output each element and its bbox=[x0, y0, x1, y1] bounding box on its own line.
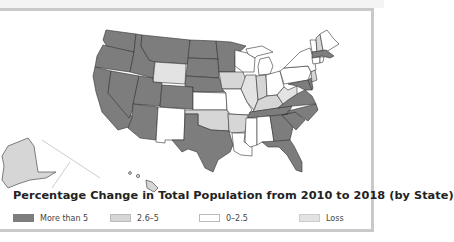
legend-more-than-5: More than 5 bbox=[13, 212, 88, 224]
state-nd bbox=[188, 40, 218, 59]
state-me bbox=[320, 30, 339, 52]
state-wy bbox=[153, 62, 186, 84]
state-ak bbox=[2, 138, 56, 188]
map-title: Percentage Change in Total Population fr… bbox=[13, 189, 454, 202]
legend-label: Loss bbox=[326, 214, 344, 223]
legend-swatch-loss bbox=[299, 214, 320, 222]
state-nm bbox=[156, 107, 185, 143]
legend-swatch-0-to-2-5 bbox=[199, 214, 220, 222]
state-hi-island bbox=[129, 172, 132, 175]
state-nj bbox=[311, 70, 317, 82]
state-ms bbox=[245, 118, 257, 147]
state-ar bbox=[228, 114, 248, 133]
legend-swatch-2-6-to-5 bbox=[110, 214, 131, 222]
state-az bbox=[128, 104, 158, 140]
state-ks bbox=[193, 92, 227, 110]
state-mi-lower bbox=[258, 57, 273, 75]
legend-label: 0–2.5 bbox=[226, 214, 248, 223]
state-in bbox=[256, 75, 267, 100]
legend-loss: Loss bbox=[299, 212, 344, 224]
state-co bbox=[160, 85, 193, 109]
state-hi-island bbox=[136, 174, 139, 177]
state-fl bbox=[262, 140, 302, 172]
state-sd bbox=[186, 58, 219, 78]
legend-2-6-to-5: 2.6–5 bbox=[110, 212, 159, 224]
legend-label: 2.6–5 bbox=[137, 214, 159, 223]
state-ct bbox=[312, 57, 320, 64]
legend-label: More than 5 bbox=[40, 214, 88, 223]
legend-swatch-more-than-5 bbox=[13, 214, 34, 222]
state-ri bbox=[320, 57, 324, 63]
hawaii-divider bbox=[52, 162, 70, 188]
legend-0-to-2-5: 0–2.5 bbox=[199, 212, 248, 224]
